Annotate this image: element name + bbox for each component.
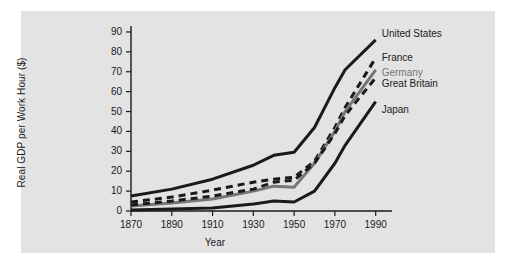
y-tick-label: 20: [100, 165, 122, 176]
y-tick-label: 80: [100, 46, 122, 57]
chart-series-group: [131, 40, 376, 210]
series-line-germany: [131, 70, 376, 206]
y-tick-label: 30: [100, 145, 122, 156]
series-label-france: France: [382, 52, 413, 63]
x-axis-ticks: [131, 211, 376, 216]
x-tick-label: 1970: [315, 219, 355, 230]
x-axis-label: Year: [180, 237, 250, 248]
y-tick-label: 70: [100, 66, 122, 77]
y-tick-label: 40: [100, 125, 122, 136]
y-axis-ticks: [126, 32, 131, 211]
x-tick-label: 1990: [356, 219, 396, 230]
series-label-germany: Germany: [382, 67, 423, 78]
x-tick-label: 1910: [193, 219, 233, 230]
x-tick-label: 1870: [111, 219, 151, 230]
series-line-great-britain: [131, 78, 376, 205]
x-tick-label: 1950: [274, 219, 314, 230]
y-tick-label: 10: [100, 185, 122, 196]
chart-screenshot: Real GDP per Work Hour ($) Year 01020304…: [0, 0, 515, 266]
x-tick-label: 1890: [152, 219, 192, 230]
series-label-united-states: United States: [382, 28, 442, 39]
series-label-japan: Japan: [382, 104, 409, 115]
y-tick-label: 50: [100, 106, 122, 117]
y-tick-label: 60: [100, 86, 122, 97]
chart-axes: [126, 26, 392, 216]
y-axis-label: Real GDP per Work Hour ($): [16, 58, 27, 188]
series-label-great-britain: Great Britain: [382, 78, 438, 89]
y-tick-label: 0: [100, 205, 122, 216]
x-tick-label: 1930: [233, 219, 273, 230]
y-tick-label: 90: [100, 26, 122, 37]
